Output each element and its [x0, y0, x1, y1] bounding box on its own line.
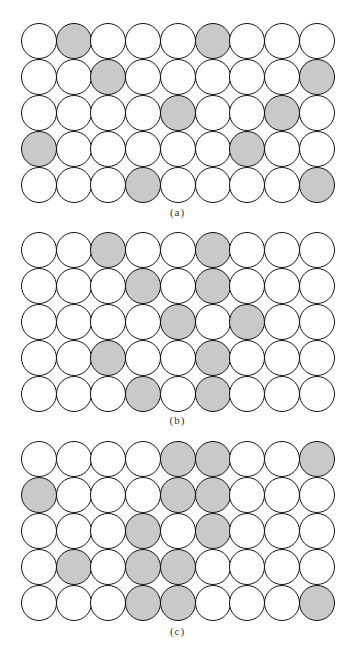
shaded-circle: [160, 585, 196, 621]
shaded-circle: [264, 95, 300, 131]
empty-circle: [299, 23, 335, 59]
empty-circle: [21, 513, 57, 549]
shaded-circle: [195, 376, 231, 412]
empty-circle: [299, 376, 335, 412]
empty-circle: [264, 549, 300, 585]
shaded-circle: [299, 441, 335, 477]
empty-circle: [264, 304, 300, 340]
empty-circle: [56, 340, 92, 376]
empty-circle: [229, 549, 265, 585]
empty-circle: [299, 304, 335, 340]
shaded-circle: [229, 304, 265, 340]
shaded-circle: [160, 95, 196, 131]
empty-circle: [56, 167, 92, 203]
shaded-circle: [21, 131, 57, 167]
empty-circle: [264, 23, 300, 59]
empty-circle: [90, 477, 126, 513]
empty-circle: [21, 232, 57, 268]
empty-circle: [264, 585, 300, 621]
empty-circle: [229, 232, 265, 268]
shaded-circle: [125, 585, 161, 621]
empty-circle: [299, 95, 335, 131]
empty-circle: [56, 441, 92, 477]
empty-circle: [229, 513, 265, 549]
empty-circle: [90, 513, 126, 549]
empty-circle: [125, 131, 161, 167]
empty-circle: [160, 131, 196, 167]
empty-circle: [21, 23, 57, 59]
empty-circle: [56, 232, 92, 268]
empty-circle: [21, 376, 57, 412]
empty-circle: [56, 376, 92, 412]
shaded-circle: [195, 268, 231, 304]
empty-circle: [160, 513, 196, 549]
empty-circle: [229, 585, 265, 621]
empty-circle: [160, 232, 196, 268]
empty-circle: [21, 95, 57, 131]
shaded-circle: [90, 340, 126, 376]
shaded-circle: [160, 441, 196, 477]
shaded-circle: [90, 59, 126, 95]
empty-circle: [90, 131, 126, 167]
empty-circle: [229, 340, 265, 376]
empty-circle: [90, 167, 126, 203]
empty-circle: [229, 23, 265, 59]
shaded-circle: [125, 167, 161, 203]
empty-circle: [21, 549, 57, 585]
empty-circle: [21, 585, 57, 621]
empty-circle: [56, 59, 92, 95]
caption-c: (c): [0, 625, 355, 637]
empty-circle: [299, 268, 335, 304]
empty-circle: [56, 95, 92, 131]
empty-circle: [21, 59, 57, 95]
empty-circle: [56, 268, 92, 304]
shaded-circle: [299, 585, 335, 621]
empty-circle: [264, 340, 300, 376]
shaded-circle: [195, 340, 231, 376]
shaded-circle: [195, 441, 231, 477]
empty-circle: [56, 131, 92, 167]
empty-circle: [195, 95, 231, 131]
empty-circle: [125, 477, 161, 513]
empty-circle: [229, 59, 265, 95]
empty-circle: [90, 304, 126, 340]
shaded-circle: [195, 513, 231, 549]
empty-circle: [90, 549, 126, 585]
empty-circle: [299, 549, 335, 585]
shaded-circle: [125, 513, 161, 549]
empty-circle: [160, 340, 196, 376]
empty-circle: [90, 585, 126, 621]
empty-circle: [264, 167, 300, 203]
empty-circle: [160, 268, 196, 304]
empty-circle: [195, 167, 231, 203]
empty-circle: [229, 167, 265, 203]
empty-circle: [160, 376, 196, 412]
empty-circle: [264, 441, 300, 477]
empty-circle: [264, 131, 300, 167]
shaded-circle: [125, 268, 161, 304]
empty-circle: [299, 232, 335, 268]
empty-circle: [229, 268, 265, 304]
empty-circle: [229, 477, 265, 513]
shaded-circle: [56, 23, 92, 59]
empty-circle: [299, 340, 335, 376]
caption-b: (b): [0, 414, 355, 426]
empty-circle: [125, 23, 161, 59]
empty-circle: [229, 95, 265, 131]
shaded-circle: [299, 167, 335, 203]
empty-circle: [21, 268, 57, 304]
empty-circle: [56, 304, 92, 340]
empty-circle: [195, 131, 231, 167]
shaded-circle: [56, 549, 92, 585]
empty-circle: [160, 23, 196, 59]
empty-circle: [21, 167, 57, 203]
empty-circle: [90, 441, 126, 477]
empty-circle: [21, 304, 57, 340]
empty-circle: [299, 131, 335, 167]
empty-circle: [90, 23, 126, 59]
empty-circle: [125, 340, 161, 376]
empty-circle: [21, 441, 57, 477]
empty-circle: [125, 232, 161, 268]
empty-circle: [195, 59, 231, 95]
shaded-circle: [160, 304, 196, 340]
